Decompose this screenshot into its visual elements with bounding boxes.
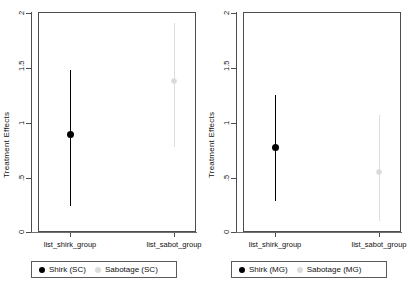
legend-dot-shirk-icon [239,267,245,273]
x-axis-label-shirk: list_shirk_group [22,240,118,249]
legend-item-sabotage: Sabotage (SC) [95,265,158,274]
y-tick-label-1: .5 [16,172,28,184]
y-tick-label-2: 1 [16,117,28,129]
legend-label-shirk: Shirk (SC) [49,265,86,274]
legend-label-sabotage: Sabotage (SC) [105,265,158,274]
legend-item-sabotage: Sabotage (MG) [297,265,362,274]
panel-mg: Treatment Effects 0 .5 1 1.5 2 list_shir… [205,0,410,289]
legend-item-shirk: Shirk (MG) [239,265,288,274]
legend-dot-sabotage-icon [297,267,303,273]
y-tick-label-3: 1.5 [16,60,28,72]
legend-dot-sabotage-icon [95,267,101,273]
coefficient-plot-figure: Treatment Effects 0 .5 1 1.5 2 list_shir… [0,0,410,289]
zero-reference-line [236,232,402,233]
panel-sc: Treatment Effects 0 .5 1 1.5 2 list_shir… [0,0,205,289]
y-axis-title: Treatment Effects [207,95,221,195]
point-sabotage [376,169,382,175]
x-tick-1 [379,233,380,237]
x-tick-1 [174,233,175,237]
y-tick-label-2: 1 [221,117,233,129]
y-tick-label-1: .5 [221,172,233,184]
y-axis-line [31,12,32,233]
error-bar-sabotage [379,115,380,221]
y-tick-label-3: 1.5 [221,60,233,72]
plot-frame [38,12,196,232]
legend-label-sabotage: Sabotage (MG) [307,265,362,274]
error-bar-sabotage [174,23,175,147]
x-tick-0 [70,233,71,237]
point-shirk [67,131,74,138]
error-bar-shirk [70,70,71,206]
legend-dot-shirk-icon [39,267,45,273]
x-tick-0 [275,233,276,237]
y-tick-label-0: 0 [16,226,28,238]
legend-item-shirk: Shirk (SC) [39,265,86,274]
y-axis-line [236,12,237,233]
x-axis-label-sabot: list_sabot_group [331,240,410,249]
x-axis-label-shirk: list_shirk_group [227,240,323,249]
point-shirk [272,144,279,151]
y-tick-label-4: 2 [16,7,28,19]
y-tick-label-0: 0 [221,226,233,238]
point-sabotage [171,78,177,84]
legend-sc: Shirk (SC) Sabotage (SC) [31,261,177,278]
y-tick-label-4: 2 [221,7,233,19]
zero-reference-line [31,232,197,233]
legend-label-shirk: Shirk (MG) [249,265,288,274]
y-axis-title: Treatment Effects [2,95,16,195]
plot-frame [243,12,401,232]
legend-mg: Shirk (MG) Sabotage (MG) [231,261,387,278]
